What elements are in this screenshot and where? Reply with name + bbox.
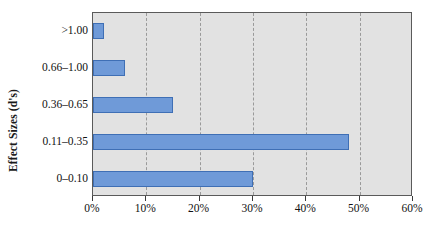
x-axis-tick-label: 30% [241, 202, 262, 214]
x-axis-tick [92, 196, 93, 201]
bar [93, 134, 349, 150]
bar-chart: Effect Sizes (d's) >1.000.66–1.000.36–0.… [0, 0, 435, 233]
y-axis-title: Effect Sizes (d's) [0, 0, 26, 233]
x-axis-tick-label: 10% [135, 202, 156, 214]
bar [93, 97, 173, 113]
x-axis-tick [305, 196, 306, 201]
x-axis-tick-label: 20% [188, 202, 209, 214]
x-axis-tick-label: 40% [295, 202, 316, 214]
y-axis-tick-label: >1.00 [26, 24, 88, 36]
bar [93, 23, 104, 39]
x-axis-tick [145, 196, 146, 201]
gridline [253, 13, 254, 195]
x-axis-tick [199, 196, 200, 201]
x-axis-tick-label: 0% [84, 202, 99, 214]
y-axis-title-label: Effect Sizes (d's) [7, 89, 19, 172]
gridline [200, 13, 201, 195]
bar [93, 171, 253, 187]
y-axis-tick-label: 0.36–0.65 [26, 98, 88, 110]
x-axis-tick-label: 50% [348, 202, 369, 214]
x-axis-tick [359, 196, 360, 201]
y-axis-tick-label: 0.66–1.00 [26, 61, 88, 73]
x-axis-tick-label: 60% [401, 202, 422, 214]
bar [93, 60, 125, 76]
x-axis-tick-labels: 0%10%20%30%40%50%60% [0, 202, 435, 220]
x-axis-tick [252, 196, 253, 201]
plot-area [92, 12, 412, 196]
x-axis-tick [412, 196, 413, 201]
gridline [306, 13, 307, 195]
y-axis-tick-label: 0.11–0.35 [26, 135, 88, 147]
gridline [360, 13, 361, 195]
y-axis-tick-labels: >1.000.66–1.000.36–0.650.11–0.350–0.10 [26, 12, 88, 196]
y-axis-tick-label: 0–0.10 [26, 172, 88, 184]
